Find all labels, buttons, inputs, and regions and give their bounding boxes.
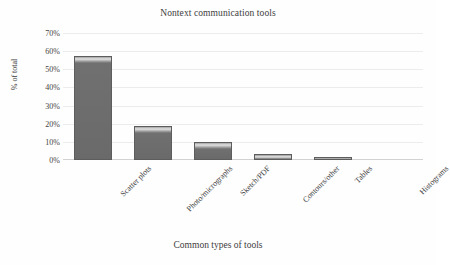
x-tick-label-scatter-plots: Scatter plots <box>119 164 153 198</box>
y-tick-label: 50% <box>16 65 60 74</box>
bar-tables[interactable] <box>314 157 352 160</box>
y-tick-label: 30% <box>16 101 60 110</box>
y-tick-label: 20% <box>16 119 60 128</box>
y-tick-label: 70% <box>16 29 60 38</box>
bar-contours-other[interactable] <box>254 154 292 160</box>
x-tick-label-photo-micrographs: Photo/micrographs <box>185 164 234 213</box>
x-tick-label-contours-other: Contours/other <box>301 164 341 204</box>
y-tick-label: 40% <box>16 83 60 92</box>
y-axis-tick-labels: 70% 60% 50% 40% 30% 20% 10% 0% <box>14 33 60 160</box>
gridline <box>63 33 423 34</box>
x-tick-label-histograms: Histograms <box>418 164 450 196</box>
y-tick-label: 10% <box>16 137 60 146</box>
plot-area <box>63 33 423 160</box>
gridline <box>63 69 423 70</box>
x-axis-title: Common types of tools <box>0 240 436 250</box>
bar-sketch-pdf[interactable] <box>194 142 232 160</box>
chart-title: Nontext communication tools <box>0 8 436 18</box>
gridline <box>63 51 423 52</box>
x-axis-tick-labels: Scatter plots Photo/micrographs Sketch/P… <box>63 162 423 232</box>
gridline <box>63 106 423 107</box>
x-tick-label-sketch-pdf: Sketch/PDF <box>238 164 272 198</box>
y-tick-label: 0% <box>16 156 60 165</box>
bar-photo-micrographs[interactable] <box>134 126 172 160</box>
bar-scatter-plots[interactable] <box>74 56 112 160</box>
gridline <box>63 124 423 125</box>
gridline <box>63 142 423 143</box>
gridline <box>63 87 423 88</box>
y-tick-label: 60% <box>16 47 60 56</box>
x-axis-line <box>63 159 423 160</box>
x-tick-label-tables: Tables <box>353 164 374 185</box>
